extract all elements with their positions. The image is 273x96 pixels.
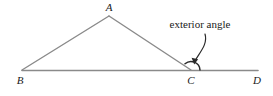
exterior-angle-caption: exterior angle [170, 18, 231, 30]
leader-curve [195, 34, 205, 61]
vertex-label-B: B [17, 74, 24, 86]
vertex-label-C: C [187, 74, 195, 86]
geometry-diagram: exterior angle A B C D [0, 0, 273, 96]
vertex-label-A: A [105, 1, 113, 13]
geometry-canvas: exterior angle A B C D [0, 0, 273, 96]
segment-BA [22, 16, 109, 70]
exterior-angle-arc [185, 61, 200, 70]
vertex-label-D: D [252, 74, 261, 86]
